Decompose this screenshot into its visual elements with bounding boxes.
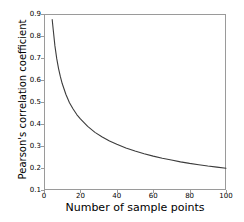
x-tick-mark — [117, 190, 118, 193]
plot-canvas — [44, 14, 226, 190]
x-tick-label: 100 — [214, 192, 238, 200]
x-tick-label: 80 — [178, 192, 202, 200]
x-axis-label: Number of sample points — [44, 201, 226, 214]
y-tick-mark — [41, 146, 44, 147]
x-tick-label: 40 — [105, 192, 129, 200]
chart-screenshot: 0.10.20.30.40.50.60.70.80.9 020406080100… — [0, 0, 244, 222]
data-series-line — [52, 20, 226, 169]
y-axis-label: Pearson's correlation coefficient — [17, 10, 28, 190]
x-tick-mark — [226, 190, 227, 193]
y-tick-mark — [41, 80, 44, 81]
x-tick-mark — [190, 190, 191, 193]
x-tick-label: 0 — [32, 192, 56, 200]
y-tick-mark — [41, 124, 44, 125]
x-tick-mark — [44, 190, 45, 193]
y-tick-mark — [41, 58, 44, 59]
x-tick-label: 60 — [141, 192, 165, 200]
y-tick-mark — [41, 36, 44, 37]
y-tick-mark — [41, 168, 44, 169]
x-tick-label: 20 — [68, 192, 92, 200]
y-tick-mark — [41, 102, 44, 103]
x-tick-mark — [153, 190, 154, 193]
y-tick-mark — [41, 14, 44, 15]
x-tick-mark — [80, 190, 81, 193]
